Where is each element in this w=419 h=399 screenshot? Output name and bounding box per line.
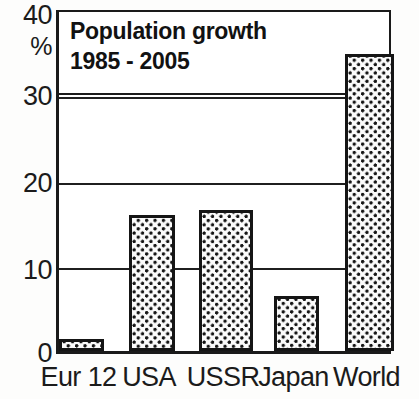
bar-usa: [129, 215, 175, 351]
x-axis-labels: Eur 12USAUSSRJapanWorld: [0, 357, 419, 399]
y-axis-unit-label: %: [0, 32, 52, 60]
y-axis-tick-40: 40: [0, 1, 52, 29]
bar-chart: 40 % 30 20 10 0 Population growth 1985 -…: [0, 0, 419, 399]
bars: [59, 12, 389, 351]
y-axis-tick-10: 10: [0, 256, 52, 284]
y-axis-tick-20: 20: [0, 169, 52, 197]
bar-world: [345, 54, 394, 351]
bar-eur-12: [59, 339, 104, 351]
bar-ussr: [199, 210, 253, 352]
plot-area: Population growth 1985 - 2005: [56, 10, 391, 354]
bar-japan: [274, 296, 319, 351]
x-axis-label-world: World: [307, 357, 419, 397]
y-axis-tick-30: 30: [0, 82, 52, 110]
